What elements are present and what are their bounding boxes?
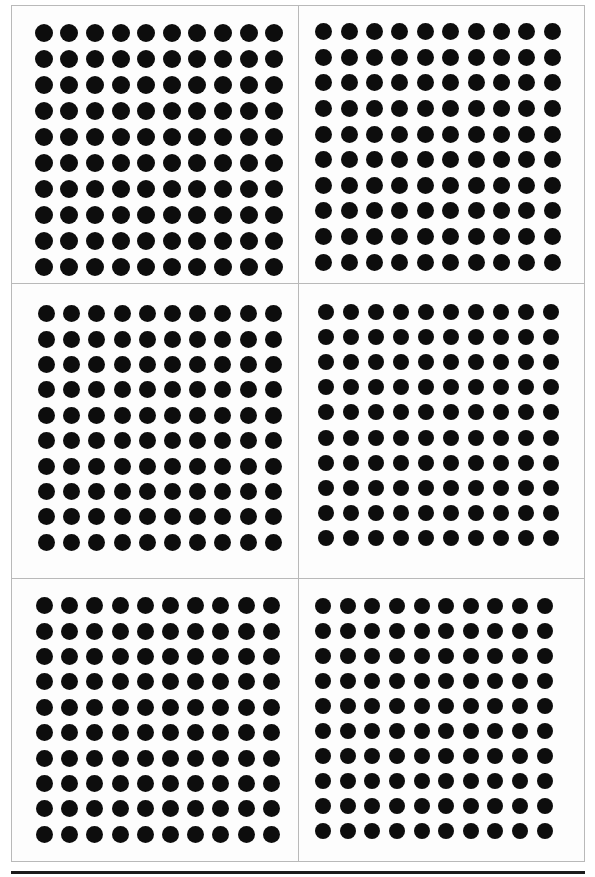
dot-marker [238, 724, 255, 741]
dot-marker [61, 724, 78, 741]
dot-marker [238, 800, 255, 817]
dot-marker [468, 49, 485, 66]
dot-marker [389, 698, 405, 714]
dot-marker [468, 304, 484, 320]
dot-marker [38, 432, 55, 449]
dot-marker [263, 623, 280, 640]
dot-marker [212, 699, 229, 716]
dot-marker [544, 202, 561, 219]
dot-marker [343, 480, 359, 496]
dot-marker [366, 177, 383, 194]
dot-marker [214, 258, 232, 276]
dot-marker [493, 74, 510, 91]
dot-marker [162, 775, 179, 792]
dot-marker [263, 648, 280, 665]
dot-marker [188, 76, 206, 94]
dot-marker [38, 305, 55, 322]
dot-marker [139, 381, 156, 398]
dot-marker [63, 483, 80, 500]
dot-marker [214, 76, 232, 94]
dot-marker [238, 826, 255, 843]
dot-marker [214, 381, 231, 398]
dot-marker [88, 432, 105, 449]
dot-marker [86, 775, 103, 792]
dot-marker [537, 598, 553, 614]
dot-marker [61, 648, 78, 665]
dot-marker [240, 154, 258, 172]
dot-marker [163, 206, 181, 224]
dot-marker [418, 304, 434, 320]
dot-marker [340, 623, 356, 639]
dot-marker [36, 724, 53, 741]
dot-marker [212, 623, 229, 640]
dot-marker [139, 534, 156, 551]
dot-marker [340, 598, 356, 614]
dot-marker [112, 673, 129, 690]
dot-marker [163, 50, 181, 68]
dot-marker [187, 623, 204, 640]
dot-marker [114, 305, 131, 322]
dot-marker [463, 823, 479, 839]
dot-marker [164, 356, 181, 373]
dot-marker [341, 177, 358, 194]
dot-marker [512, 798, 528, 814]
dot-marker [391, 126, 408, 143]
dot-marker [263, 800, 280, 817]
dot-marker [189, 331, 206, 348]
dot-marker [318, 404, 334, 420]
dot-marker [512, 823, 528, 839]
dot-marker [518, 228, 535, 245]
dot-marker [188, 206, 206, 224]
dot-marker [214, 534, 231, 551]
dot-marker [265, 180, 283, 198]
dot-marker [35, 154, 53, 172]
dot-marker [318, 379, 334, 395]
dot-marker [137, 128, 155, 146]
dot-marker [366, 23, 383, 40]
dot-marker [442, 23, 459, 40]
dot-marker [86, 24, 104, 42]
dot-marker [214, 232, 232, 250]
dot-marker [112, 826, 129, 843]
dot-marker [391, 202, 408, 219]
dot-marker [487, 623, 503, 639]
dot-marker [518, 202, 535, 219]
dot-marker [214, 356, 231, 373]
dot-marker [418, 480, 434, 496]
dot-marker [63, 534, 80, 551]
dot-marker [265, 76, 283, 94]
dot-marker [368, 530, 384, 546]
dot-marker [414, 823, 430, 839]
dot-marker [35, 232, 53, 250]
dot-marker [315, 49, 332, 66]
dot-marker [487, 698, 503, 714]
dot-marker [38, 381, 55, 398]
dot-marker [442, 202, 459, 219]
dot-marker [189, 508, 206, 525]
dot-marker [368, 354, 384, 370]
dot-marker [214, 180, 232, 198]
bottom-horizontal-rule [11, 871, 585, 874]
dot-marker [518, 49, 535, 66]
dot-marker [468, 329, 484, 345]
dot-marker [443, 329, 459, 345]
dot-marker [537, 773, 553, 789]
dot-marker [265, 128, 283, 146]
dot-marker [112, 50, 130, 68]
dot-marker [163, 76, 181, 94]
dot-marker [391, 228, 408, 245]
dot-marker [240, 305, 257, 322]
dot-marker [240, 258, 258, 276]
dot-marker [438, 598, 454, 614]
dot-marker [88, 331, 105, 348]
dot-marker [315, 773, 331, 789]
dot-marker [493, 126, 510, 143]
dot-marker [240, 356, 257, 373]
dot-marker [364, 723, 380, 739]
panel-top-right [299, 6, 584, 284]
dot-marker [340, 723, 356, 739]
dot-marker [315, 823, 331, 839]
dot-marker [417, 49, 434, 66]
dot-marker [318, 530, 334, 546]
dot-marker [114, 407, 131, 424]
